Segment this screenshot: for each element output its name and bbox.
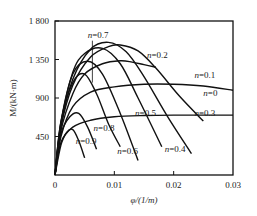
curve-label: n=0.2 <box>147 50 168 60</box>
x-tick-label: 0 <box>53 180 58 190</box>
y-tick-label: 900 <box>36 93 50 103</box>
chart-svg: 4509001 3501 80000.010.020.03 n=0.7n=0.2… <box>0 0 257 216</box>
curve-label: n=0.9 <box>76 136 97 146</box>
curve-label: n=0.5 <box>135 108 156 118</box>
x-tick-label: 0.03 <box>225 180 241 190</box>
curve-label: n=0 <box>203 88 218 98</box>
curve-label: n=0.8 <box>94 123 115 133</box>
y-axis-title: M/(kN·m) <box>8 79 18 117</box>
y-tick-label: 450 <box>36 132 50 142</box>
curve-label: n=0.7 <box>88 30 109 40</box>
axis-ticks: 4509001 3501 80000.010.020.03 <box>29 16 242 190</box>
x-tick-label: 0.02 <box>166 180 182 190</box>
y-tick-label: 1 800 <box>29 16 50 26</box>
curve-label: n=0.6 <box>117 146 138 156</box>
curve-label: n=0.4 <box>165 144 186 154</box>
x-tick-label: 0.01 <box>106 180 122 190</box>
x-axis-title: φ/(1/m) <box>131 195 158 205</box>
curve-label: n=0.1 <box>194 70 215 80</box>
curve-label: n=0.3 <box>194 108 215 118</box>
y-tick-label: 1 350 <box>29 55 50 65</box>
